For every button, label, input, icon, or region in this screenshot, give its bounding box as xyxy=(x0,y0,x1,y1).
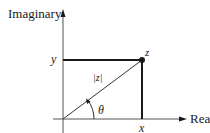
x-label: x xyxy=(138,121,145,133)
point-z-label: z xyxy=(144,46,150,58)
y-label: y xyxy=(50,52,57,66)
imaginary-axis-label: Imaginary xyxy=(8,6,62,21)
angle-label: θ xyxy=(98,103,104,117)
angle-arc xyxy=(88,101,94,120)
real-axis-arrow-icon xyxy=(179,117,187,122)
real-axis-label: Real xyxy=(190,111,210,126)
complex-plane-diagram: Imaginary Real y x z |z| θ xyxy=(0,0,210,133)
modulus-label: |z| xyxy=(93,72,102,83)
